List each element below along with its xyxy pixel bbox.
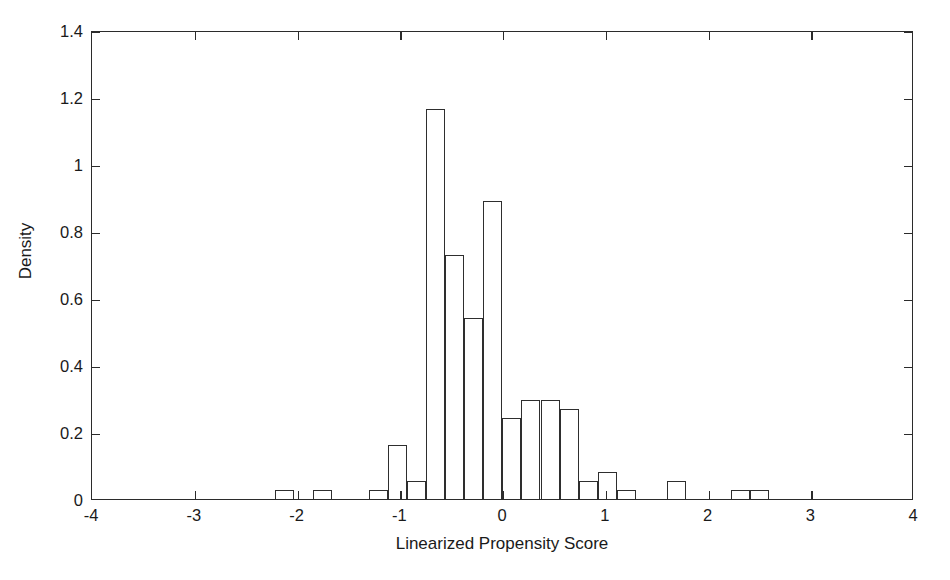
y-axis-tick: [904, 300, 912, 301]
x-axis-tick: [811, 491, 812, 499]
histogram-bar: [313, 490, 332, 499]
x-axis-tick: [298, 32, 299, 40]
y-axis-tick: [92, 32, 100, 33]
histogram-bars: [92, 32, 912, 499]
x-axis-tick: [503, 491, 504, 499]
y-axis-tick-label: 0.4: [60, 357, 83, 376]
y-axis-tick: [92, 367, 100, 368]
y-axis-tick: [904, 32, 912, 33]
y-axis-tick-label: 0.6: [60, 290, 83, 309]
histogram-bar: [541, 400, 560, 499]
y-axis-tick: [92, 233, 100, 234]
x-axis-tick: [811, 32, 812, 40]
x-axis-tick: [606, 32, 607, 40]
y-axis-tick: [92, 300, 100, 301]
y-axis-tick: [904, 434, 912, 435]
x-axis-title: Linearized Propensity Score: [91, 534, 913, 554]
x-axis-tick-label: -2: [289, 506, 304, 525]
histogram-bar: [464, 318, 483, 499]
y-axis-tick-label: 1.2: [60, 89, 83, 108]
x-axis-tick: [400, 491, 401, 499]
histogram-bar: [667, 481, 686, 499]
x-axis-tick-label: 1: [600, 506, 609, 525]
x-axis-tick-label: -3: [186, 506, 201, 525]
y-axis-tick: [904, 233, 912, 234]
histogram-bar: [426, 109, 445, 499]
y-axis-tick-labels: 00.20.40.60.811.21.4: [0, 0, 83, 580]
histogram-bar: [445, 255, 464, 499]
y-axis-tick: [92, 99, 100, 100]
x-axis-tick-label: 4: [908, 506, 917, 525]
plot-area: [91, 31, 913, 500]
y-axis-tick-label: 0: [74, 491, 83, 510]
histogram-bar: [521, 400, 540, 499]
x-axis-tick: [606, 491, 607, 499]
histogram-bar: [617, 490, 636, 499]
y-axis-tick: [904, 99, 912, 100]
histogram-bar: [275, 490, 294, 499]
histogram-bar: [750, 490, 769, 499]
y-axis-tick: [92, 434, 100, 435]
y-axis-tick-label: 1: [74, 156, 83, 175]
y-axis-tick-label: 0.8: [60, 223, 83, 242]
x-axis-tick: [709, 491, 710, 499]
y-axis-tick: [92, 166, 100, 167]
histogram-bar: [369, 490, 388, 499]
x-axis-tick-label: -1: [392, 506, 407, 525]
histogram-bar: [483, 201, 502, 499]
x-axis-tick: [195, 32, 196, 40]
histogram-bar: [502, 418, 521, 499]
x-axis-tick: [195, 491, 196, 499]
x-axis-tick: [400, 32, 401, 40]
x-axis-tick-label: 3: [806, 506, 815, 525]
histogram-bar: [388, 445, 407, 499]
x-axis-tick-label: -4: [84, 506, 99, 525]
y-axis-tick: [904, 166, 912, 167]
histogram-figure: Density 00.20.40.60.811.21.4 -4-3-2-1012…: [0, 0, 950, 580]
histogram-bar: [731, 490, 750, 499]
x-axis-tick: [298, 491, 299, 499]
y-axis-tick: [904, 367, 912, 368]
histogram-bar: [560, 409, 579, 499]
histogram-bar: [407, 481, 426, 499]
x-axis-tick-label: 0: [497, 506, 506, 525]
x-axis-tick: [709, 32, 710, 40]
x-axis-tick-label: 2: [703, 506, 712, 525]
y-axis-tick-label: 0.2: [60, 424, 83, 443]
histogram-bar: [579, 481, 598, 499]
x-axis-tick: [503, 32, 504, 40]
y-axis-tick-label: 1.4: [60, 22, 83, 41]
